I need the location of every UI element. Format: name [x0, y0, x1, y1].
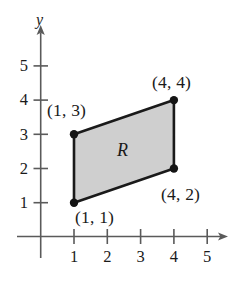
vertex-dot-1-3: [70, 130, 78, 138]
vertex-label-4-4: (4, 4): [152, 74, 191, 92]
y-axis-label: y: [36, 12, 43, 28]
y-axis: [37, 25, 45, 258]
vertex-label-1-3: (1, 3): [47, 102, 86, 120]
x-axis: [17, 232, 228, 240]
y-tick-label-2: 2: [14, 161, 28, 178]
x-tick-label-2: 2: [98, 249, 116, 266]
vertex-dot-1-1: [70, 199, 78, 207]
vertex-dot-4-4: [170, 96, 178, 104]
x-tick-label-5: 5: [198, 249, 216, 266]
x-tick-label-3: 3: [132, 249, 150, 266]
vertex-label-1-1: (1, 1): [75, 209, 114, 227]
figure-container: y 1 2 3 4 5 1 2 3 4 5 (1, 3) (4, 4) (4, …: [0, 0, 242, 292]
y-tick-label-3: 3: [14, 127, 28, 144]
y-tick-label-4: 4: [14, 92, 28, 109]
vertex-label-4-2: (4, 2): [161, 186, 200, 204]
x-tick-label-4: 4: [165, 249, 183, 266]
y-tick-label-5: 5: [14, 58, 28, 75]
region-label: R: [117, 141, 128, 159]
x-tick-label-1: 1: [65, 249, 83, 266]
vertex-dot-4-2: [170, 164, 178, 172]
y-tick-label-1: 1: [14, 195, 28, 212]
